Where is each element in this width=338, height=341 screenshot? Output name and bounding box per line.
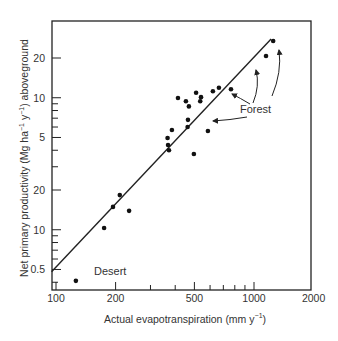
scatter-chart: 10020050010002000 2010520100.5 Desert Fo… [0, 0, 338, 341]
data-point [187, 104, 192, 109]
data-point [199, 95, 204, 100]
data-point [217, 85, 222, 90]
regression-line [52, 39, 272, 272]
x-tick-label: 2000 [302, 292, 326, 304]
data-point [271, 39, 276, 44]
data-point [170, 128, 175, 133]
y-tick-label: 0.5 [30, 263, 45, 275]
data-point [185, 125, 190, 130]
data-point [206, 129, 211, 134]
x-tick-label: 500 [186, 292, 204, 304]
y-tick-label: 10 [33, 224, 45, 236]
y-tick-label: 10 [33, 92, 45, 104]
data-point [102, 226, 107, 231]
data-point [127, 209, 132, 214]
x-axis-ticks: 10020050010002000 [47, 282, 325, 304]
data-point [264, 54, 269, 59]
data-point [167, 148, 172, 153]
arrow-icon [213, 117, 247, 121]
x-tick-label: 200 [107, 292, 125, 304]
arrow-icon [253, 70, 257, 103]
data-point [111, 205, 116, 210]
data-point [74, 279, 79, 284]
data-point [166, 143, 171, 148]
data-point [211, 89, 216, 94]
data-point [117, 193, 122, 198]
data-point [194, 90, 199, 95]
x-tick-label: 1000 [242, 292, 266, 304]
plot-frame [52, 21, 311, 290]
desert-annotation: Desert [94, 265, 126, 277]
x-axis-label: Actual evapotranspiration (mm y−1) [104, 312, 266, 325]
x-tick-label: 100 [47, 292, 65, 304]
y-tick-label: 5 [39, 131, 45, 143]
y-axis-ticks: 2010520100.5 [30, 52, 61, 282]
data-point [192, 152, 197, 157]
y-tick-label: 20 [33, 184, 45, 196]
forest-annotation: Forest [240, 103, 271, 115]
data-point [165, 136, 170, 141]
y-tick-label: 20 [33, 52, 45, 64]
data-point [184, 99, 189, 104]
data-point [186, 118, 191, 123]
data-point [229, 87, 234, 92]
data-points [74, 39, 276, 283]
arrow-icon [272, 50, 280, 96]
data-point [176, 96, 181, 101]
data-point [198, 99, 203, 104]
y-axis-label: Net primary productivity (Mg ha−1 y−1) a… [18, 39, 31, 277]
